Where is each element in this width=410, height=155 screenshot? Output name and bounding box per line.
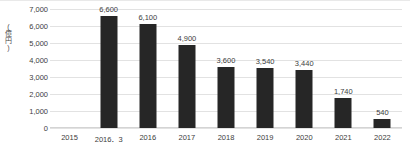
bar-value-label: 3,540 — [256, 57, 275, 66]
bar[interactable] — [257, 68, 274, 128]
bar-slot[interactable] — [50, 9, 89, 128]
bar[interactable] — [178, 45, 195, 128]
x-axis-tick-label: 2016 — [139, 133, 156, 142]
bar-value-label: 540 — [376, 108, 389, 117]
plot-area: 6,6006,1004,9003,6003,5403,4401,740540 — [50, 9, 402, 128]
bar-slot[interactable]: 3,440 — [285, 9, 324, 128]
bar-slot[interactable]: 540 — [363, 9, 402, 128]
y-axis-tick-label: 3,000 — [12, 73, 48, 82]
bar[interactable] — [335, 98, 352, 128]
y-axis-tick-labels: 01,0002,0003,0004,0005,0006,0007,000 — [12, 6, 48, 128]
y-axis-tick-label: 7,000 — [12, 5, 48, 14]
bar-value-label: 3,440 — [295, 59, 314, 68]
bar[interactable] — [296, 70, 313, 128]
y-axis-tick-label: 0 — [12, 124, 48, 133]
gridline — [50, 128, 402, 129]
y-axis-tick-label: 5,000 — [12, 39, 48, 48]
x-axis-tick-label: 2021 — [335, 133, 352, 142]
x-axis-tick-label: 2022 — [374, 133, 391, 142]
x-axis-tick-labels: 20152016．32016201720182019202020212022 — [50, 133, 402, 147]
x-axis-tick-label: 2019 — [257, 133, 274, 142]
bar-chart: (億円) 01,0002,0003,0004,0005,0006,0007,00… — [0, 0, 410, 155]
top-divider — [0, 0, 410, 1]
bar-series: 6,6006,1004,9003,6003,5403,4401,740540 — [50, 9, 402, 128]
x-axis-tick-label: 2018 — [218, 133, 235, 142]
bar-slot[interactable]: 4,900 — [167, 9, 206, 128]
y-axis-tick-label: 4,000 — [12, 56, 48, 65]
bar-slot[interactable]: 1,740 — [324, 9, 363, 128]
x-axis-tick-label: 2017 — [179, 133, 196, 142]
bar-value-label: 6,100 — [138, 13, 157, 22]
bar[interactable] — [217, 67, 234, 128]
bar[interactable] — [100, 16, 117, 128]
y-axis-tick-label: 2,000 — [12, 90, 48, 99]
bar-slot[interactable]: 3,600 — [206, 9, 245, 128]
x-axis-tick-label: 2020 — [296, 133, 313, 142]
bar[interactable] — [374, 119, 391, 128]
bar-value-label: 1,740 — [334, 87, 353, 96]
y-axis-tick-label: 1,000 — [12, 107, 48, 116]
bar-value-label: 6,600 — [99, 5, 118, 14]
bar-slot[interactable]: 6,100 — [128, 9, 167, 128]
bar[interactable] — [139, 24, 156, 128]
x-axis-tick-label: 2015 — [61, 133, 78, 142]
x-axis-tick-label: 2016．3 — [95, 133, 123, 144]
bar-slot[interactable]: 3,540 — [246, 9, 285, 128]
y-axis-tick-label: 6,000 — [12, 22, 48, 31]
bar-value-label: 4,900 — [177, 34, 196, 43]
bar-value-label: 3,600 — [217, 56, 236, 65]
bar-slot[interactable]: 6,600 — [89, 9, 128, 128]
